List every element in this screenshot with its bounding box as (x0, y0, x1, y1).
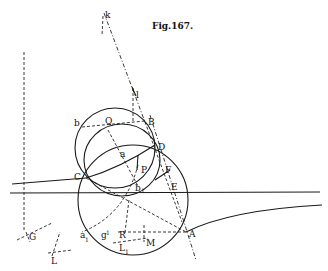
label-g-subscript: 1 (106, 229, 110, 236)
label-b1-subscript: 1 (141, 187, 145, 194)
lower-circle (78, 145, 188, 255)
k-to-B-line (104, 13, 145, 122)
label-a1-subscript: 1 (85, 236, 89, 243)
L-line-1 (48, 250, 72, 253)
label-L1-subscript: 1 (125, 248, 129, 255)
P-to-a1-arc (82, 165, 138, 232)
label-a: a (120, 149, 126, 159)
horizontal-axis-line (10, 192, 320, 193)
label-M: M (146, 238, 155, 248)
label-L: L (51, 256, 57, 266)
label-k: k (105, 10, 111, 20)
right-curve (186, 205, 322, 232)
label-Q: Q (105, 116, 112, 126)
label-C: C (74, 172, 81, 182)
geometry-figure: Fig.167. k l B b Q D a C (0, 0, 328, 271)
label-b: b (74, 118, 80, 128)
k-short-dashed-line (102, 16, 103, 36)
label-A: A (188, 229, 196, 239)
label-R: R (119, 230, 126, 240)
label-D: D (158, 142, 165, 152)
label-G: G (29, 232, 36, 242)
label-E: E (171, 182, 178, 192)
P-tick (137, 155, 138, 170)
B-to-A-line (145, 122, 182, 222)
label-F: F (165, 165, 171, 175)
R-vertical-line (125, 200, 129, 232)
label-B: B (148, 117, 155, 127)
label-l: l (136, 90, 139, 100)
label-P: P (141, 165, 147, 175)
figure-title: Fig.167. (152, 21, 193, 31)
